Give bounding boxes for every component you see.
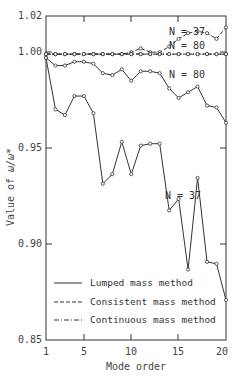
data-point-marker: [111, 73, 114, 76]
data-point-marker: [73, 94, 76, 97]
data-point-marker: [101, 53, 104, 56]
data-point-marker: [63, 53, 66, 56]
x-tick-label: 5: [81, 346, 87, 357]
annotation-n80-consistent: N = 80: [169, 40, 205, 51]
data-point-marker: [63, 114, 66, 117]
data-point-marker: [205, 104, 208, 107]
data-point-marker: [187, 53, 190, 56]
data-point-marker: [73, 60, 76, 63]
svg-text:Value of: Value of: [5, 178, 16, 226]
data-point-marker: [111, 173, 114, 176]
data-point-marker: [187, 91, 190, 94]
data-point-marker: [149, 70, 152, 73]
data-point-marker: [92, 112, 95, 115]
data-point-marker: [205, 53, 208, 56]
data-point-marker: [130, 53, 133, 56]
data-point-marker: [139, 53, 142, 56]
svg-text:ω/ω*: ω/ω*: [5, 148, 16, 172]
data-point-marker: [177, 96, 180, 99]
legend-label-consistent: Consistent mass method: [90, 296, 216, 307]
data-point-marker: [44, 56, 47, 59]
data-point-marker: [120, 53, 123, 56]
data-point-marker: [82, 53, 85, 56]
data-point-marker: [139, 47, 142, 50]
data-point-marker: [215, 37, 218, 40]
data-point-marker: [92, 53, 95, 56]
data-point-marker: [196, 85, 199, 88]
data-point-marker: [215, 262, 218, 265]
data-point-marker: [54, 64, 57, 67]
x-axis-title: Mode order: [106, 361, 166, 372]
data-point-marker: [63, 64, 66, 67]
data-point-marker: [54, 108, 57, 111]
data-point-marker: [224, 121, 227, 124]
annotation-n37-lumped: N = 37: [165, 190, 201, 201]
data-point-marker: [158, 72, 161, 75]
data-point-marker: [120, 68, 123, 71]
y-ticks: [46, 52, 226, 244]
data-point-marker: [158, 142, 161, 145]
data-point-marker: [111, 53, 114, 56]
data-point-marker: [149, 142, 152, 145]
x-ticks: [84, 16, 178, 340]
annotation-n80-lumped: N = 80: [169, 69, 205, 80]
data-point-marker: [168, 53, 171, 56]
data-point-marker: [215, 106, 218, 109]
data-point-marker: [215, 53, 218, 56]
data-point-marker: [130, 173, 133, 176]
y-axis-title: Value of ω/ω*: [5, 148, 16, 226]
data-point-marker: [205, 32, 208, 35]
x-tick-label: 10: [125, 346, 137, 357]
y-tick-label: 0.95: [18, 142, 42, 153]
data-point-marker: [130, 79, 133, 82]
y-tick-label: 0.90: [18, 238, 42, 249]
data-point-marker: [187, 268, 190, 271]
y-tick-label: 1.00: [18, 46, 42, 57]
data-point-marker: [168, 209, 171, 212]
data-point-marker: [101, 182, 104, 185]
data-point-marker: [54, 53, 57, 56]
data-point-marker: [120, 140, 123, 143]
data-point-marker: [82, 94, 85, 97]
y-tick-label: 0.85: [18, 334, 42, 345]
data-point-marker: [82, 60, 85, 63]
y-tick-label: 1.02: [18, 10, 42, 21]
legend-label-continuous: Continuous mass method: [90, 314, 216, 325]
data-point-marker: [44, 53, 47, 56]
data-point-marker: [149, 53, 152, 56]
data-point-marker: [224, 53, 227, 56]
data-point-marker: [139, 70, 142, 73]
data-point-marker: [139, 144, 142, 147]
data-point-marker: [168, 87, 171, 90]
chart: 1.02 1.00 0.95 0.90 0.85 1 5 10 15 20 Mo…: [0, 0, 237, 378]
data-point-marker: [73, 53, 76, 56]
x-tick-label: 1: [43, 346, 49, 357]
annotation-n37-consistent: N = 37: [169, 26, 205, 37]
data-point-marker: [205, 260, 208, 263]
x-tick-label: 15: [172, 346, 184, 357]
data-point-marker: [224, 26, 227, 29]
data-point-marker: [177, 53, 180, 56]
data-point-marker: [196, 176, 199, 179]
legend-label-lumped: Lumped mass method: [90, 277, 193, 288]
data-point-marker: [224, 298, 227, 301]
data-point-marker: [158, 53, 161, 56]
data-point-marker: [92, 62, 95, 65]
data-point-marker: [101, 72, 104, 75]
x-tick-label: 20: [216, 346, 228, 357]
data-point-marker: [196, 53, 199, 56]
series-layer: [44, 26, 227, 302]
legend: Lumped mass method Consistent mass metho…: [54, 277, 216, 325]
series-line: [46, 58, 226, 123]
